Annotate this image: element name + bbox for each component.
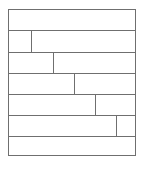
diagram-row-4	[9, 73, 135, 94]
diagram-row-6	[9, 115, 135, 136]
block-diagram-frame	[8, 9, 136, 156]
diagram-row-7	[9, 136, 135, 157]
row-divider	[95, 95, 96, 115]
diagram-row-1	[9, 10, 135, 30]
diagram-row-5	[9, 94, 135, 115]
diagram-row-3	[9, 52, 135, 73]
row-divider	[116, 116, 117, 136]
diagram-row-2	[9, 30, 135, 52]
row-divider	[74, 74, 75, 94]
row-divider	[53, 53, 54, 73]
row-divider	[31, 31, 32, 52]
